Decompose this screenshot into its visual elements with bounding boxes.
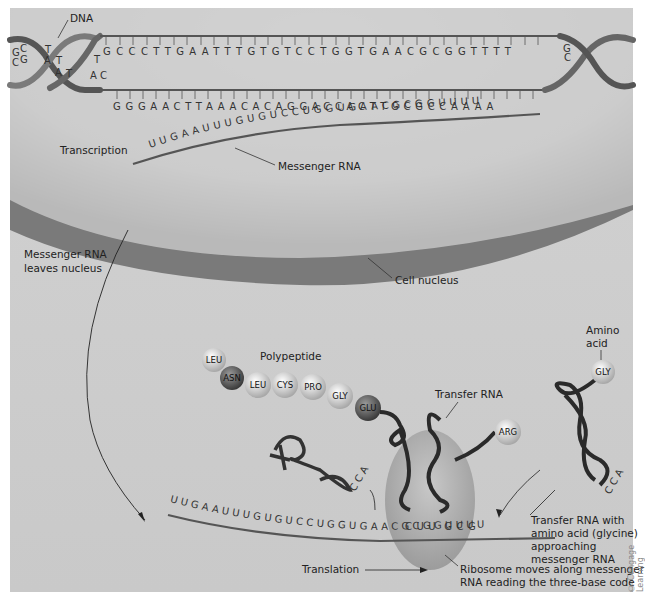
copyright-credit: © Cengage Learning: [627, 530, 645, 592]
svg-text:T: T: [55, 55, 63, 66]
svg-text:C: C: [20, 43, 27, 54]
amino-acid-label-line1: Amino: [586, 324, 619, 336]
amino-acid-arg: ARG: [499, 427, 517, 437]
cell-nucleus-label: Cell nucleus: [395, 274, 459, 286]
transfer-rna-label: Transfer RNA: [434, 388, 504, 400]
messenger-rna-label: Messenger RNA: [278, 160, 362, 172]
svg-text:A: A: [55, 67, 62, 78]
amino-acid-gly: GLY: [332, 391, 348, 401]
protein-synthesis-diagram: DNA GC CG TAT AT TAC G C GCCCTTGAATTTGTG…: [0, 0, 647, 592]
amino-acid-asn: ASN: [223, 373, 241, 383]
amino-acid-leu-1: LEU: [206, 355, 222, 365]
svg-text:G: G: [20, 54, 28, 65]
amino-acid-leu-2: LEU: [250, 380, 266, 390]
svg-text:C: C: [564, 52, 571, 63]
svg-text:T: T: [65, 68, 73, 79]
amino-acid-gly-incoming: GLY: [595, 367, 611, 377]
amino-acid-label-line2: acid: [586, 337, 608, 349]
svg-text:A: A: [90, 70, 97, 81]
svg-text:T: T: [93, 54, 101, 65]
trna-approach-label-line1: Transfer RNA with: [530, 514, 625, 526]
ribosome-label-line2: RNA reading the three-base code: [460, 576, 635, 588]
mrna-leaves-label-line1: Messenger RNA: [24, 248, 108, 260]
ribosome: [385, 430, 475, 570]
mrna-leaves-label-line2: leaves nucleus: [24, 262, 102, 274]
translation-label: Translation: [301, 563, 359, 575]
amino-acid-cys: CYS: [277, 380, 293, 390]
polypeptide-label: Polypeptide: [260, 350, 321, 362]
amino-acid-pro: PRO: [304, 382, 322, 392]
svg-text:C: C: [12, 57, 19, 68]
dna-top-strand: GCCCTTGAATTTGTGTCCTGGTGAACGCGGTTTT: [103, 46, 516, 57]
svg-text:C: C: [100, 70, 107, 81]
ribosome-label-line1: Ribosome moves along messenger: [460, 563, 645, 575]
trna-approach-label-line3: approaching: [531, 540, 596, 552]
dna-label: DNA: [70, 12, 94, 24]
svg-text:A: A: [44, 55, 51, 66]
svg-text:T: T: [44, 44, 52, 55]
amino-acid-glu: GLU: [359, 403, 376, 413]
transcription-label: Transcription: [59, 144, 128, 156]
